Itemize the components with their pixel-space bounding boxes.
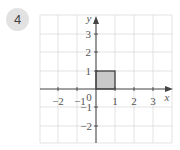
y-tick-label: 2 (86, 46, 92, 58)
x-tick-label: 2 (131, 95, 137, 107)
x-axis-label: x (164, 91, 170, 103)
unit-square-shape (96, 71, 115, 89)
y-tick-label: 3 (86, 28, 92, 40)
y-tick-label: 1 (86, 65, 92, 77)
coordinate-grid: −2 −1 1 2 3 0 3 2 1 −1 −2 x y (0, 0, 180, 150)
x-tick-label: 3 (150, 95, 156, 107)
y-tick-label: −2 (80, 120, 92, 132)
x-tick-label: 1 (112, 95, 118, 107)
y-axis-label: y (86, 12, 92, 24)
x-tick-label: −2 (52, 95, 64, 107)
y-tick-label: −1 (80, 101, 92, 113)
y-axis-arrow-icon (93, 16, 99, 24)
